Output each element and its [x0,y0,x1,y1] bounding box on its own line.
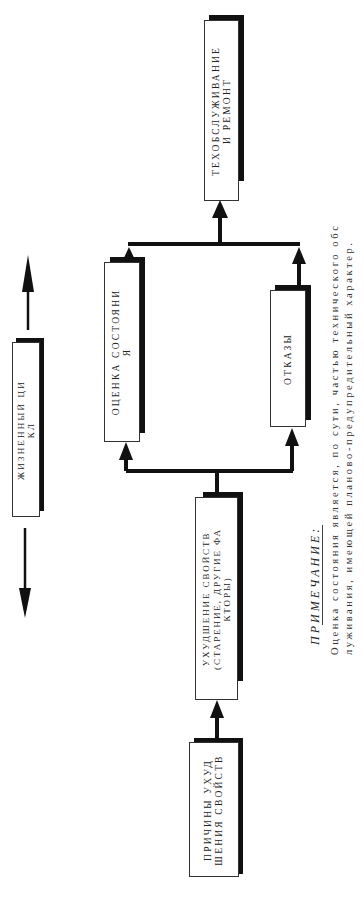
connectors [0,0,364,915]
arrowhead-to-condition [119,442,133,460]
diagram-canvas: ТЕХОБСЛУЖИВАНИЕ И РЕМОНТ ОЦЕНКА СОСТОЯНИ… [0,0,364,915]
arrowhead-maintenance [212,200,228,218]
box-failures: ОТКАЗЫ [270,290,306,427]
box-condition-assessment: ОЦЕНКА СОСТОЯНИ Я [104,262,140,442]
box-degradation-line-2: (СТАРЕНИЕ, ДРУГИЕ ФА [211,501,222,697]
note-underline [322,525,323,625]
box-degradation-line-3: КТОРЫ) [222,501,233,697]
box-degradation-line-1: УХУДШЕНИЕ СВОЙСТВ [201,501,212,697]
box-life-cycle: ЖИЗНЕННЫЙ ЦИ КЛ [12,342,40,517]
box-life-cycle-line-1: ЖИЗНЕННЫЙ ЦИ [16,345,26,515]
box-life-cycle-line-2: КЛ [26,345,36,515]
arrowhead-to-degradation [210,700,224,718]
box-maintenance-line-1: ТЕХОБСЛУЖИВАНИЕ [211,26,222,196]
box-maintenance: ТЕХОБСЛУЖИВАНИЕ И РЕМОНТ [204,20,239,201]
arrowhead-to-failures [285,428,299,446]
box-failures-line-1: ОТКАЗЫ [283,294,294,424]
note-title: ПРИМЕЧАНИЕ: [308,526,323,645]
box-condition-line-1: ОЦЕНКА СОСТОЯНИ [111,266,122,438]
box-condition-line-2: Я [122,266,133,438]
note-line-2: луживания, имеющей планово-предупредител… [343,240,354,655]
box-causes-line-1: ПРИЧИНЫ УХУД [203,744,214,876]
box-causes: ПРИЧИНЫ УХУД ШЕНИЯ СВОЙСТВ [189,742,239,877]
box-causes-line-2: ШЕНИЯ СВОЙСТВ [214,744,225,876]
box-degradation: УХУДШЕНИЕ СВОЙСТВ (СТАРЕНИЕ, ДРУГИЕ ФА К… [195,497,238,700]
note-line-1: Оценка состояния является, по сути, част… [329,224,340,655]
box-maintenance-line-2: И РЕМОНТ [222,26,233,196]
arrowhead-failures-to-bar [292,247,306,264]
